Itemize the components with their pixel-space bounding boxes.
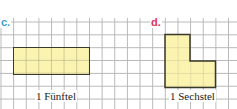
caption-d: 1 Sechstel	[169, 90, 216, 102]
